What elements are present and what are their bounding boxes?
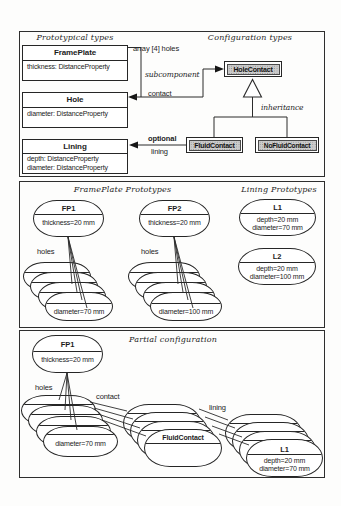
stadium-l1-separator (239, 213, 316, 214)
class-attr-lining-depth: depth: DistanceProperty (23, 154, 127, 164)
stack-separator (144, 443, 222, 444)
shaded-box-fluidcontact: FluidContact (186, 137, 243, 153)
stadium-l2-attr2: diameter=100 mm (239, 273, 315, 281)
class-box-frameplate: FramePlate thickness: DistanceProperty (22, 45, 128, 81)
stadium-l1-attr1: depth=20 mm (240, 216, 315, 224)
class-attr-frameplate-thickness: thickness: DistanceProperty (23, 61, 127, 72)
stack-config-hole-front: diameter=70 mm (43, 426, 118, 457)
label-lining-config: lining (209, 403, 226, 412)
label-contact-config: contact (96, 392, 119, 401)
label-array-holes: array [4] holes (133, 44, 179, 53)
label-holes-config: holes (35, 383, 52, 392)
stack-fp1-hole-front: diameter=70 mm (45, 292, 113, 321)
stadium-l2-attr1: depth=20 mm (239, 265, 315, 273)
class-title-hole: Hole (23, 93, 127, 108)
stack-fp2-hole-front: diameter=100 mm (150, 292, 222, 321)
figure-page: Prototypical types Configuration types F… (0, 0, 341, 506)
stadium-fp1-config: FP1 thickness=20 mm (32, 335, 103, 373)
label-inheritance: inheritance (261, 103, 303, 112)
class-box-hole: Hole diameter: DistanceProperty (22, 92, 128, 128)
stack-separator (45, 303, 113, 304)
stadium-fp1: FP1 thickness=20 mm (33, 200, 104, 237)
stack-separator (43, 434, 118, 435)
label-subcomponent: subcomponent (145, 70, 200, 79)
stadium-l2: L2 depth=20 mm diameter=100 mm (238, 248, 316, 285)
header-prototypical-types: Prototypical types (25, 33, 125, 42)
stadium-l1: L1 depth=20 mm diameter=70 mm (239, 199, 316, 236)
label-holes-fp1: holes (37, 247, 54, 256)
header-partial-configuration: Partial configuration (128, 335, 218, 344)
stack-lining-attr2: diameter=70 mm (247, 465, 322, 473)
shaded-box-fluidcontact-label: FluidContact (189, 140, 241, 151)
stack-lining-front: L1 depth=20 mm diameter=70 mm (246, 439, 323, 477)
class-attr-hole-diameter: diameter: DistanceProperty (23, 108, 127, 119)
class-box-lining: Lining depth: DistanceProperty diameter:… (22, 139, 128, 174)
stack-separator (150, 303, 222, 304)
label-optional: optional (148, 134, 176, 143)
label-array-rest: [4] holes (152, 44, 179, 53)
stadium-fp1-config-title: FP1 (33, 340, 102, 349)
stadium-fp1-config-attr: thickness=20 mm (33, 356, 102, 364)
stack-fp1-hole-attr: diameter=70 mm (46, 308, 112, 316)
stack-fluidcontact-title: FluidContact (145, 434, 221, 441)
shaded-box-holecontact: HoleContact (224, 61, 282, 77)
stadium-fp2: FP2 thickness=20 mm (139, 200, 210, 237)
stack-config-hole-attr: diameter=70 mm (44, 440, 117, 448)
header-configuration-types: Configuration types (200, 33, 300, 42)
class-title-frameplate: FramePlate (23, 46, 127, 61)
header-lining-prototypes: Lining Prototypes (235, 185, 323, 194)
stadium-l1-title: L1 (240, 203, 315, 212)
class-attr-lining-diameter: diameter: DistanceProperty (23, 164, 127, 173)
stadium-l2-separator (238, 262, 316, 263)
stack-separator (32, 351, 103, 352)
class-title-lining: Lining (23, 140, 127, 154)
label-holes-fp2: holes (141, 247, 158, 256)
stack-lining-attr1: depth=20 mm (247, 457, 322, 465)
shaded-box-nofluidcontact: NoFluidContact (255, 137, 319, 153)
stadium-fp1-title: FP1 (34, 204, 103, 213)
label-array-bold: array (133, 44, 150, 53)
stadium-fp2-attr: thickness=20 mm (140, 219, 209, 227)
stadium-l1-attr2: diameter=70 mm (240, 224, 315, 232)
shaded-box-holecontact-label: HoleContact (227, 64, 280, 75)
stack-separator (28, 414, 103, 415)
stadium-fp2-title: FP2 (140, 204, 209, 213)
stack-fp2-hole-attr: diameter=100 mm (151, 308, 221, 316)
stack-separator (246, 454, 323, 455)
label-lining: lining (151, 147, 168, 156)
stack-fluidcontact-front: FluidContact (144, 429, 222, 467)
stadium-fp1-attr: thickness=20 mm (34, 219, 103, 227)
stadium-fp2-separator (139, 214, 210, 215)
stack-lining-title: L1 (247, 445, 322, 454)
header-frameplate-prototypes: FramePlate Prototypes (60, 185, 185, 194)
label-contact: contact (148, 89, 171, 98)
shaded-box-nofluidcontact-label: NoFluidContact (258, 140, 317, 151)
stadium-l2-title: L2 (239, 252, 315, 261)
stadium-fp1-separator (33, 214, 104, 215)
